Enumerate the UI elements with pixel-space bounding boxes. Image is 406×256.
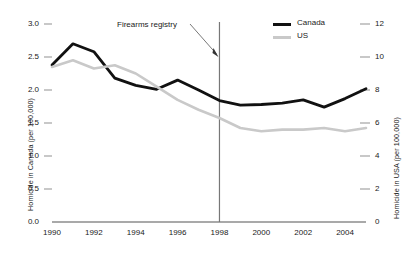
homicide-line-chart: Homicide in Canada (per 100,000) Homicid… <box>0 0 406 256</box>
series-line-canada <box>52 44 366 107</box>
left-tick-label: 2.5 <box>19 52 39 61</box>
left-tick-label: 1.0 <box>19 151 39 160</box>
x-tick-label: 1990 <box>35 228 69 237</box>
firearms-registry-annotation <box>190 22 219 222</box>
legend-swatch-us <box>273 36 291 39</box>
left-tick-label: 3.0 <box>19 19 39 28</box>
right-tick-label: 4 <box>375 151 395 160</box>
legend-swatch-canada <box>273 23 291 26</box>
right-tick-label: 12 <box>375 19 395 28</box>
right-tick-label: 2 <box>375 184 395 193</box>
left-tick-label: 1.5 <box>19 118 39 127</box>
right-tick-label: 0 <box>375 217 395 226</box>
right-tick-marks <box>360 24 370 189</box>
left-tick-label: 0.0 <box>19 217 39 226</box>
x-tick-label: 2002 <box>286 228 320 237</box>
right-tick-label: 6 <box>375 118 395 127</box>
legend-label-canada: Canada <box>297 18 325 27</box>
x-tick-label: 2004 <box>328 228 362 237</box>
annotation-label-firearms-registry: Firearms registry <box>117 20 177 29</box>
x-tick-label: 2000 <box>244 228 278 237</box>
right-tick-label: 8 <box>375 85 395 94</box>
x-tick-label: 1996 <box>161 228 195 237</box>
series-lines <box>52 44 366 131</box>
plot-area <box>0 0 406 256</box>
legend-label-us: US <box>297 31 308 40</box>
right-tick-label: 10 <box>375 52 395 61</box>
x-tick-label: 1994 <box>119 228 153 237</box>
x-tick-label: 1992 <box>77 228 111 237</box>
left-tick-marks <box>44 24 52 189</box>
x-tick-label: 1998 <box>202 228 236 237</box>
left-tick-label: 2.0 <box>19 85 39 94</box>
left-tick-label: 0.5 <box>19 184 39 193</box>
